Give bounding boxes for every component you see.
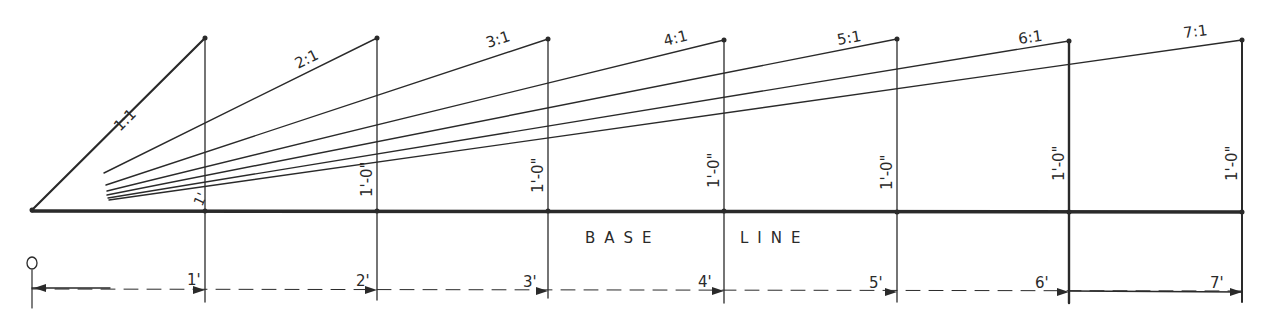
rise-label-5: 1'-0"	[878, 154, 896, 190]
vertex-point	[375, 36, 380, 41]
vertex-point	[895, 37, 900, 42]
base-label-word-2: LINE	[740, 229, 809, 247]
rise-label-3: 1'-0"	[529, 157, 547, 193]
dimension-label-1: 1'	[187, 271, 201, 289]
ratio-label-5: 5:1	[836, 27, 863, 49]
arrow-right-icon	[1057, 288, 1069, 296]
base-point	[375, 209, 380, 214]
base-point	[1067, 210, 1072, 215]
vertex-point	[546, 37, 551, 42]
dimension-label-2: 2'	[356, 272, 370, 290]
slope-line-7-1	[109, 40, 1242, 200]
dimension-label-3: 3'	[523, 273, 537, 291]
base-label-word-1: BASE	[585, 229, 661, 247]
arrow-left-icon	[34, 284, 46, 292]
slope-line-4-1	[107, 40, 724, 191]
base-point	[203, 209, 208, 214]
base-point	[546, 209, 551, 214]
rise-label-1: 1'	[190, 190, 210, 208]
dimension-label-4: 4'	[698, 273, 712, 291]
rise-label-7: 1'-0"	[1223, 145, 1241, 181]
rise-label-2: 1'-0"	[358, 161, 376, 197]
dimension-label-5: 5'	[869, 274, 883, 292]
base-point	[1240, 210, 1245, 215]
origin-marker	[27, 257, 37, 269]
arrow-right-icon	[536, 287, 548, 295]
origin-point	[30, 208, 35, 213]
arrow-right-icon	[712, 287, 724, 295]
slope-line-3-1	[106, 39, 548, 185]
slope-line-5-1	[107, 39, 897, 195]
slope-line-2-1	[104, 38, 377, 173]
slope-diagram: 1:1 2:1 3:1 4:1 5:1 6:1 7:1 1' 1'-0" 1'-…	[0, 0, 1268, 322]
rise-label-4: 1'-0"	[705, 152, 723, 188]
vertex-point	[722, 38, 727, 43]
ratio-label-6: 6:1	[1017, 27, 1043, 48]
ratio-label-1: 1:1	[110, 105, 140, 135]
ratio-label-3: 3:1	[484, 27, 513, 52]
arrow-right-icon	[1230, 288, 1242, 296]
vertex-point	[1240, 38, 1245, 43]
ratio-label-7: 7:1	[1182, 21, 1208, 42]
vertex-point	[203, 36, 208, 41]
ratio-label-4: 4:1	[662, 27, 690, 50]
rise-label-6: 1'-0"	[1050, 145, 1068, 181]
vertex-point	[1067, 39, 1072, 44]
slope-line-6-1	[108, 41, 1069, 198]
dimension-label-6: 6'	[1035, 274, 1049, 292]
base-line	[32, 211, 1242, 212]
dimension-label-7: 7'	[1210, 274, 1224, 292]
ratio-label-2: 2:1	[292, 46, 322, 73]
arrow-right-icon	[885, 288, 897, 296]
base-point	[722, 209, 727, 214]
base-point	[895, 210, 900, 215]
